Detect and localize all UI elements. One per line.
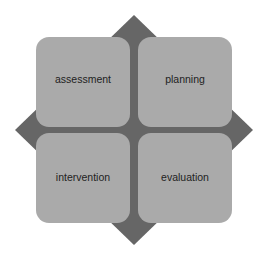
quadrant-planning: planning <box>138 37 232 127</box>
quadrant-assessment: assessment <box>36 37 130 127</box>
quadrant-intervention: intervention <box>36 133 130 223</box>
quadrant-label: planning <box>165 73 205 85</box>
quadrant-label: intervention <box>56 171 110 183</box>
quadrant-label: evaluation <box>161 171 209 183</box>
quadrant-evaluation: evaluation <box>138 133 232 223</box>
quadrant-label: assessment <box>55 73 111 85</box>
